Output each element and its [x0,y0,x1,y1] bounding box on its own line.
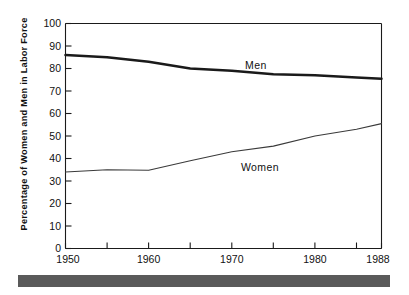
y-tick-label-80: 80 [49,62,61,74]
x-tick-label-1988: 1988 [366,253,390,265]
series-line-men [66,55,382,79]
chart-figure: Percentage of Women and Men in Labor For… [0,0,409,295]
y-tick-label-100: 100 [43,17,61,29]
decorative-footer-bar [18,275,390,287]
series-annotation-men: Men [245,59,267,71]
x-tick-label-1980: 1980 [303,253,327,265]
y-tick-label-10: 10 [49,220,61,232]
y-tick-label-30: 30 [49,175,61,187]
y-axis-tick-labels: 0 10 20 30 40 50 60 70 80 90 100 [43,17,61,254]
x-tick-label-1970: 1970 [220,253,244,265]
y-tick-label-50: 50 [49,130,61,142]
y-axis-ticks [66,24,72,249]
line-chart-plot: 0 10 20 30 40 50 60 70 80 90 100 1950 [0,0,409,295]
y-tick-label-70: 70 [49,85,61,97]
y-tick-label-20: 20 [49,197,61,209]
y-tick-label-40: 40 [49,152,61,164]
y-tick-label-90: 90 [49,40,61,52]
x-tick-label-1960: 1960 [137,253,161,265]
series-line-women [66,124,382,172]
x-axis-ticks [66,243,382,249]
series-annotation-women: Women [241,161,279,173]
x-tick-label-1950: 1950 [56,253,80,265]
x-axis-tick-labels: 1950 1960 1970 1980 1988 [56,253,390,265]
y-tick-label-60: 60 [49,107,61,119]
